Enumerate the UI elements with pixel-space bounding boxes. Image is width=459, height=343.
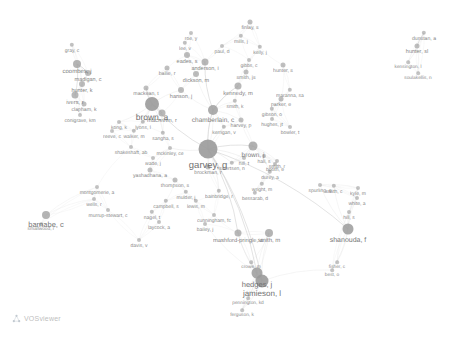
- network-node-label: parker, e: [271, 102, 291, 108]
- network-node-label: hill, t: [239, 161, 249, 167]
- network-node-label: white, a: [348, 201, 365, 207]
- network-node-label: harvey, p: [231, 123, 252, 129]
- network-node-label: wright, m: [252, 187, 272, 193]
- network-node-label: nagel, t: [144, 215, 160, 221]
- network-node-label: fisher, c: [329, 265, 346, 270]
- network-node-label: finlay, s: [241, 25, 258, 31]
- network-node-label: hunter, s: [273, 68, 293, 74]
- network-node-label: sivertsen, n: [219, 166, 245, 172]
- network-node-label: bailey, j: [197, 227, 214, 233]
- network-node-label: hughes, jt: [261, 122, 283, 128]
- network-node-label: bainbridge, r: [205, 194, 233, 200]
- network-node-label: mashford-pringle, a: [213, 238, 263, 244]
- network-node-label: roe, y: [185, 36, 198, 42]
- network-node-label: wells, r: [86, 202, 102, 208]
- network-node-label: campbell, s: [153, 204, 178, 210]
- network-node-label: paul, d: [214, 49, 229, 55]
- network-node-label: dickson, m: [183, 78, 209, 84]
- network-node-label: chamberlain, c: [192, 116, 234, 123]
- network-node-label: hill, s: [343, 215, 354, 221]
- network-node-label: laycock, a: [148, 225, 170, 231]
- network-node-label: sangha, s: [152, 136, 174, 142]
- network-node-label: lee, v: [179, 46, 191, 52]
- network-node-label: mckinley, ce: [156, 151, 183, 157]
- network-node-label: shakeshaft, ab: [115, 150, 148, 156]
- network-node-label: kong, k: [111, 125, 127, 131]
- network-node-label: pennington, kd: [232, 301, 263, 306]
- network-node-label: hedges, j: [242, 279, 272, 288]
- network-node-label: bowler, t: [281, 130, 300, 136]
- network-node-label: cunningham, fc: [197, 218, 231, 224]
- network-node-label: hall, s: [257, 159, 270, 165]
- network-node-label: gibson, o: [262, 112, 282, 118]
- network-node-label: best, o: [325, 273, 339, 278]
- network-node-label: thompson, s: [161, 183, 189, 189]
- network-node-label: gibbs, c: [240, 63, 257, 69]
- network-node-label: gray, c: [65, 48, 80, 54]
- vosviewer-map-canvas[interactable]: garvey, gbrown, achamberlain, cjamieson,…: [0, 0, 459, 343]
- network-node-label: lyons, l: [135, 125, 151, 131]
- network-node-label: wade, j: [145, 161, 161, 167]
- network-label-layer: garvey, gbrown, achamberlain, cjamieson,…: [0, 0, 459, 343]
- network-node-label: bessarab, d: [242, 196, 268, 202]
- network-node-label: kensington, l: [395, 65, 422, 70]
- network-node-label: macniven, r: [147, 118, 177, 124]
- network-node-label: crowe, m: [241, 265, 260, 270]
- network-node-label: montgomerie, a: [80, 190, 115, 196]
- vosviewer-watermark: VOSviewer: [12, 314, 61, 323]
- network-node-label: hanson, j: [170, 94, 192, 100]
- network-node-label: kennedy, m: [223, 91, 253, 97]
- network-node-label: booth, e: [266, 167, 284, 173]
- network-node-label: conigrave, km: [64, 118, 95, 124]
- network-node-label: smith, k: [226, 104, 243, 110]
- network-node-label: jamieson, l: [243, 289, 281, 298]
- vosviewer-network-icon: [12, 314, 21, 323]
- network-node-label: mulder, j: [177, 195, 196, 201]
- network-node-label: hunter, k: [71, 88, 92, 94]
- network-node-label: brockman, r: [194, 170, 221, 176]
- network-node-label: ivers, r: [66, 100, 83, 106]
- network-node-label: yashadhana, a: [133, 173, 167, 179]
- network-node-label: mills, j: [234, 39, 248, 45]
- network-node-label: smallwood, r: [28, 227, 55, 232]
- network-node-label: kelly, j: [253, 50, 267, 56]
- network-node-label: reeve, c: [103, 134, 121, 140]
- network-node-label: spurling, g: [308, 188, 331, 194]
- network-node-label: smith, js: [236, 75, 255, 81]
- network-node-label: lewis, m: [187, 204, 205, 210]
- network-node-label: davis, v: [131, 243, 148, 249]
- network-node-label: madigan, c: [75, 77, 102, 83]
- network-node-label: clapham, k: [71, 107, 96, 113]
- network-node-label: shanouda, f: [330, 236, 367, 243]
- network-node-label: mackean, t: [133, 91, 158, 97]
- network-node-label: walker, m: [123, 134, 144, 140]
- network-node-label: kyle, m: [350, 191, 366, 197]
- network-node-label: dunstan, a: [412, 36, 436, 42]
- network-node-label: durey, a: [261, 175, 279, 181]
- network-node-label: anderson, i: [191, 66, 218, 72]
- network-node-label: murrup-stewart, c: [89, 213, 128, 219]
- network-node-label: ferguson, k: [230, 313, 254, 318]
- vosviewer-watermark-label: VOSviewer: [24, 315, 61, 322]
- network-node-label: soulakellis, n: [404, 76, 431, 81]
- network-node-label: hunter, sl: [406, 49, 428, 55]
- network-node-label: coombes, j: [62, 69, 91, 75]
- network-node-label: kerrigan, v: [212, 130, 235, 136]
- network-node-label: maranna, sa: [276, 93, 304, 99]
- network-node-label: bailie, r: [159, 71, 176, 77]
- network-node-label: eades, s: [177, 59, 198, 65]
